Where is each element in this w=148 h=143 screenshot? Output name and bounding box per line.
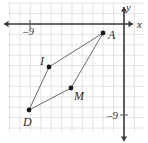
vertex-dot-a <box>101 31 106 36</box>
vertex-label-m: M <box>74 90 84 102</box>
vertex-dot-d <box>27 108 32 113</box>
x-axis-label: x <box>137 19 142 30</box>
coordinate-grid-figure: x y –9 –9 D I A M <box>0 0 148 143</box>
x-axis-arrow-right <box>129 21 134 27</box>
vertex-dot-i <box>47 65 52 70</box>
vertex-label-a: A <box>108 29 115 41</box>
vertex-label-d: D <box>23 116 32 128</box>
vertex-label-i: I <box>40 55 44 67</box>
vertex-dot-m <box>69 86 74 91</box>
vertex-dots <box>27 31 106 113</box>
y-axis-label: y <box>126 2 131 13</box>
y-axis-tick-label-negative-9: –9 <box>107 110 118 121</box>
y-axis-arrow-down <box>121 137 127 142</box>
x-axis-tick-label-negative-9: –9 <box>23 26 34 37</box>
x-axis-arrow-left <box>4 21 9 27</box>
